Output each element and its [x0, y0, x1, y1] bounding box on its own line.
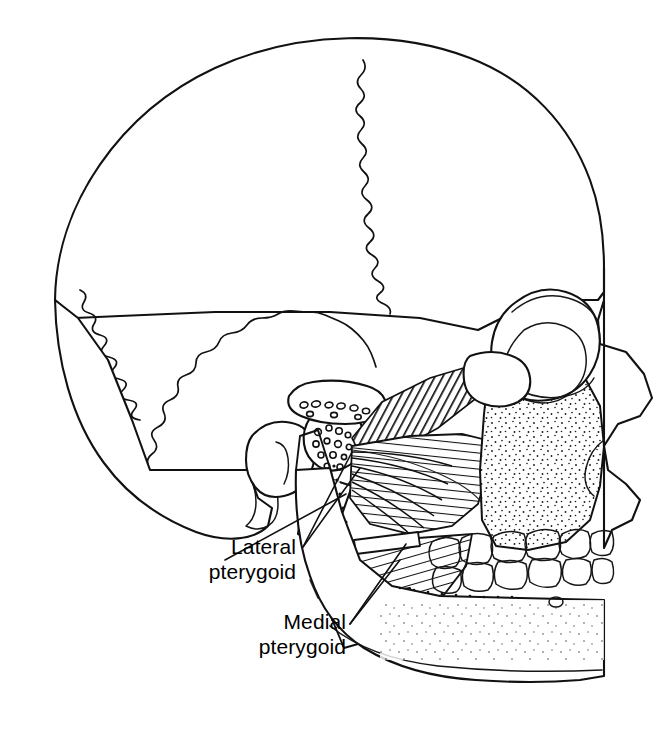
label-medial-pterygoid: Medial pterygoid — [146, 609, 346, 659]
mandible-body-stipple — [380, 600, 604, 660]
zygomatic-bone — [464, 352, 531, 407]
occipital-mastoid-outline — [55, 300, 272, 539]
frontal-and-nasal-profile — [598, 268, 652, 548]
lp-lower-head-body — [350, 434, 488, 534]
lateral-pterygoid-lower-head — [350, 434, 488, 536]
calvaria-outline — [55, 38, 604, 330]
occipital-and-mastoid — [55, 300, 278, 539]
cranial-vault — [55, 38, 604, 330]
anatomical-figure: Lateral pterygoid Medial pterygoid — [0, 0, 667, 744]
label-lateral-pterygoid: Lateral pterygoid — [96, 534, 296, 584]
